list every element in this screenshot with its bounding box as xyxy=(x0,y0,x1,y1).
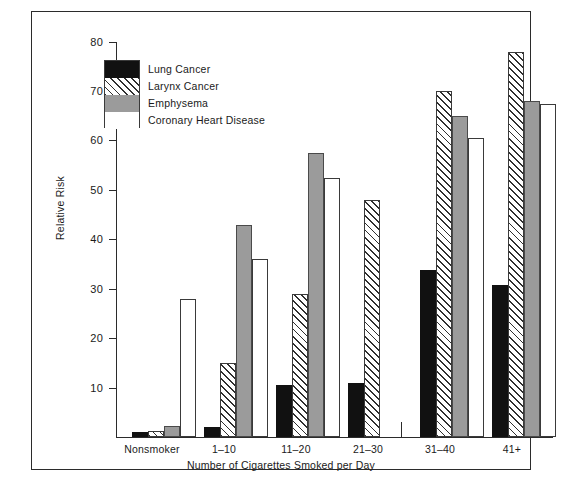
y-tick-80 xyxy=(109,42,116,43)
bar-41-plus-lung-cancer xyxy=(492,285,508,437)
bar-11-20-emphysema xyxy=(308,153,324,437)
bar-1-10-emphysema xyxy=(236,225,252,437)
bar-21-30-larynx-cancer xyxy=(364,200,380,437)
bar-41-plus-emphysema xyxy=(524,101,540,437)
y-tick-10 xyxy=(109,388,116,389)
bar-11-20-larynx-cancer xyxy=(292,294,308,437)
bar-1-10-coronary-heart-disease xyxy=(252,259,268,437)
legend-swatch-emphysema xyxy=(105,95,139,112)
y-tick-30 xyxy=(109,289,116,290)
bar-nonsmoker-coronary-heart-disease xyxy=(180,299,196,437)
y-tick-60 xyxy=(109,140,116,141)
legend-swatch-stack xyxy=(104,60,140,128)
y-tick-label-70: 70 xyxy=(77,85,103,97)
bar-1-10-larynx-cancer xyxy=(220,363,236,437)
y-tick-label-10: 10 xyxy=(77,382,103,394)
x-axis-title: Number of Cigarettes Smoked per Day xyxy=(32,459,530,471)
x-label-21-30: 21–30 xyxy=(332,443,404,455)
y-tick-label-20: 20 xyxy=(77,332,103,344)
legend-label-larynx-cancer: Larynx Cancer xyxy=(148,80,219,92)
y-tick-label-30: 30 xyxy=(77,283,103,295)
x-label-nonsmoker: Nonsmoker xyxy=(116,443,188,455)
bar-11-20-lung-cancer xyxy=(276,385,292,437)
bar-21-30-lung-cancer xyxy=(348,383,364,437)
y-tick-40 xyxy=(109,239,116,240)
legend-label-lung-cancer: Lung Cancer xyxy=(148,63,210,75)
y-tick-label-40: 40 xyxy=(77,233,103,245)
legend-swatch-larynx-cancer xyxy=(105,78,139,95)
y-tick-label-50: 50 xyxy=(77,184,103,196)
legend-label-coronary-heart-disease: Coronary Heart Disease xyxy=(148,114,265,126)
bar-31-40-coronary-heart-disease xyxy=(468,138,484,437)
bar-nonsmoker-emphysema xyxy=(164,426,180,437)
x-label-31-40: 31–40 xyxy=(404,443,476,455)
figure-frame: Relative Risk Number of Cigarettes Smoke… xyxy=(31,11,531,470)
bar-nonsmoker-larynx-cancer xyxy=(148,431,164,437)
legend-swatch-coronary-heart-disease xyxy=(105,112,139,129)
bar-11-20-coronary-heart-disease xyxy=(324,178,340,437)
y-tick-label-80: 80 xyxy=(77,36,103,48)
bar-nonsmoker-lung-cancer xyxy=(132,432,148,437)
bar-41-plus-coronary-heart-disease xyxy=(540,104,556,437)
legend-label-emphysema: Emphysema xyxy=(148,97,208,109)
x-label-1-10: 1–10 xyxy=(188,443,260,455)
y-tick-20 xyxy=(109,338,116,339)
y-tick-label-60: 60 xyxy=(77,134,103,146)
y-tick-50 xyxy=(109,190,116,191)
legend-swatch-lung-cancer xyxy=(105,61,139,78)
x-axis-line xyxy=(116,437,553,438)
x-label-41-plus: 41+ xyxy=(476,443,548,455)
bar-1-10-lung-cancer xyxy=(204,427,220,437)
bar-31-40-emphysema xyxy=(452,116,468,437)
x-label-11-20: 11–20 xyxy=(260,443,332,455)
y-axis-title: Relative Risk xyxy=(54,176,66,240)
bar-31-40-lung-cancer xyxy=(420,270,436,437)
bar-31-40-larynx-cancer xyxy=(436,91,452,437)
bar-41-plus-larynx-cancer xyxy=(508,52,524,437)
